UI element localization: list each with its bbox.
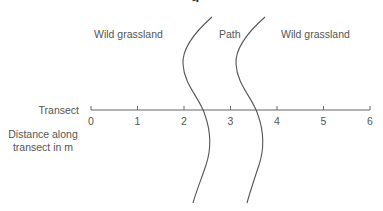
transect-axis-label: Transect <box>39 105 79 116</box>
region-label-path: Path <box>219 29 241 40</box>
transect-diagram: g Wild grassland Path Wild grassland Tra… <box>0 0 383 211</box>
region-label-wild-grassland-right: Wild grassland <box>281 29 350 40</box>
tick-label-6: 6 <box>367 116 373 127</box>
tick-label-3: 3 <box>228 116 234 127</box>
transect-ticks <box>91 106 370 110</box>
distance-label-line2: transect in m <box>4 141 82 154</box>
tick-label-0: 0 <box>88 116 94 127</box>
tick-label-1: 1 <box>135 116 141 127</box>
tick-label-5: 5 <box>321 116 327 127</box>
tick-label-2: 2 <box>181 116 187 127</box>
distance-label-line1: Distance along <box>4 128 82 141</box>
tick-label-4: 4 <box>274 116 280 127</box>
distance-axis-label: Distance along transect in m <box>4 128 82 154</box>
region-label-wild-grassland-left: Wild grassland <box>94 29 163 40</box>
